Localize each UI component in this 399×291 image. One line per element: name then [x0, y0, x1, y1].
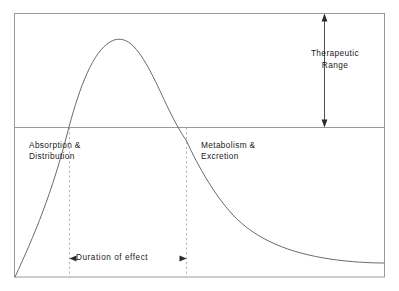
duration-of-effect-label: Duration of effect [76, 252, 148, 263]
pharmacokinetic-curve-figure: Therapeutic Range Absorption & Distribut… [0, 0, 399, 291]
arrowhead-up-icon [322, 14, 328, 22]
absorption-distribution-label: Absorption & Distribution [29, 140, 81, 162]
absorption-line-1: Absorption & [29, 140, 81, 151]
therapeutic-range-label: Therapeutic Range [304, 47, 366, 71]
metabolism-excretion-label: Metabolism & Excretion [201, 140, 255, 162]
therapeutic-range-line-2: Range [304, 59, 366, 71]
absorption-line-2: Distribution [29, 151, 81, 162]
arrowhead-down-icon [322, 120, 328, 128]
arrowhead-right-icon [180, 255, 187, 261]
metabolism-line-2: Excretion [201, 151, 255, 162]
metabolism-line-1: Metabolism & [201, 140, 255, 151]
therapeutic-range-line-1: Therapeutic [304, 47, 366, 59]
